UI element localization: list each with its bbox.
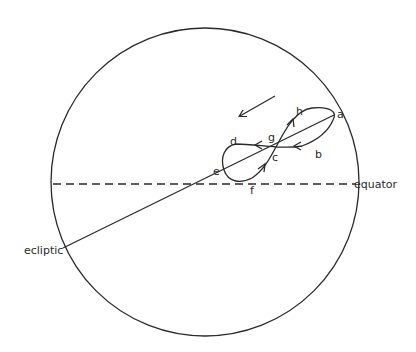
point-h: h: [296, 105, 303, 118]
point-e: e: [213, 165, 220, 178]
point-b: b: [315, 148, 322, 161]
point-c: c: [272, 151, 278, 164]
motion-arrow: [240, 96, 275, 116]
arrow-f: [258, 164, 265, 172]
celestial-diagram: a b c d e f g h ecliptic equator: [0, 0, 416, 352]
equator-label: equator: [354, 178, 398, 191]
ecliptic-label: ecliptic: [24, 244, 63, 257]
point-a: a: [337, 108, 344, 121]
ecliptic-line: [63, 115, 334, 248]
point-d: d: [230, 135, 237, 148]
point-f: f: [250, 184, 255, 197]
point-g: g: [268, 131, 275, 144]
celestial-sphere: [51, 28, 359, 336]
loop-left-lobe: [223, 144, 277, 181]
loop-right-lobe: [276, 108, 334, 148]
